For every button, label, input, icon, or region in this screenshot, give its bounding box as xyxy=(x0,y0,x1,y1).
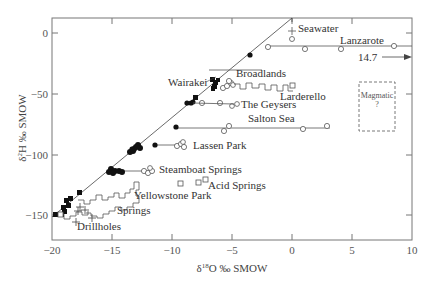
x-tick-label: 0 xyxy=(289,244,295,256)
geysers-points xyxy=(199,100,239,108)
x-tick-label: −20 xyxy=(43,244,61,256)
label-springs: Springs xyxy=(117,204,151,216)
label-seawater: Seawater xyxy=(298,22,339,34)
seawater-marker xyxy=(288,27,296,35)
label-drillholes: Drillholes xyxy=(77,220,121,232)
label-steamboat: Steamboat Springs xyxy=(159,163,242,175)
x-tick-label: −10 xyxy=(163,244,181,256)
label-lassen: Lassen Park xyxy=(193,139,247,151)
label-salton: Salton Sea xyxy=(248,112,295,124)
label-geysers: The Geysers xyxy=(241,98,296,110)
acid-points xyxy=(178,177,208,186)
steamboat-points xyxy=(141,166,154,176)
label-magmatic-question: ? xyxy=(375,100,379,109)
label-broadlands: Broadlands xyxy=(236,67,286,79)
label-magmatic: Magmatic xyxy=(361,91,394,100)
y-tick-label: 0 xyxy=(43,27,49,39)
y-tick-labels: 0 −50 −100 −150 xyxy=(25,27,48,221)
label-wairakei: Wairakei xyxy=(168,76,207,88)
x-axis-label: δ18O ‰ SMOW xyxy=(197,262,268,274)
broadlands-points xyxy=(220,78,235,90)
y-tick-label: −100 xyxy=(25,149,48,161)
arrow-value-label: 14.7 xyxy=(358,51,378,63)
salton-points xyxy=(221,123,329,133)
label-acid: Acid Springs xyxy=(208,179,266,191)
x-tick-label: −15 xyxy=(103,244,121,256)
arrow-icon xyxy=(382,54,412,60)
x-tick-label: 5 xyxy=(349,244,355,256)
y-tick-label: −50 xyxy=(31,88,49,100)
x-tick-label: −5 xyxy=(226,244,238,256)
lassen-points xyxy=(174,140,186,150)
label-lanzarote: Lanzarote xyxy=(340,34,384,46)
y-tick-label: −150 xyxy=(25,209,48,221)
label-yellowstone: Yellowstone Park xyxy=(134,189,212,201)
x-tick-label: 10 xyxy=(407,244,419,256)
x-tick-labels: −20 −15 −10 −5 0 5 10 xyxy=(43,244,418,256)
isotope-scatter-chart: −20 −15 −10 −5 0 5 10 0 −50 −100 −150 δ1… xyxy=(0,0,436,282)
y-axis-label: δ2H ‰ SMOW xyxy=(16,94,28,162)
